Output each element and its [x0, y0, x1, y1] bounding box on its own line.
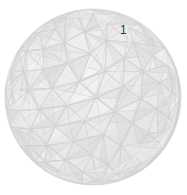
sphere-label: 1	[120, 24, 127, 36]
sphere-scene: 1	[0, 0, 187, 195]
geodesic-sphere	[0, 0, 187, 195]
